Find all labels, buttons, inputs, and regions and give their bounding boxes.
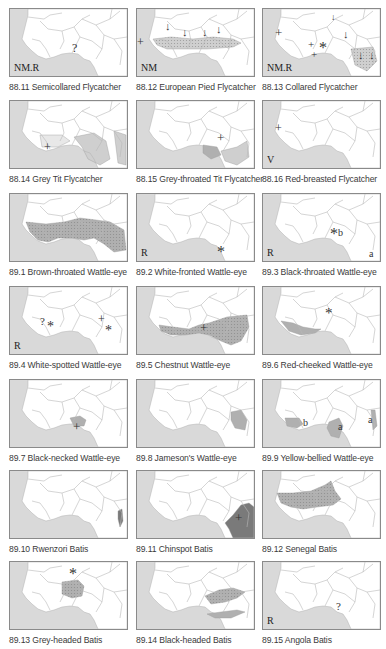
migration-arrow-icon: ↓ xyxy=(358,50,364,61)
map-frame: + xyxy=(136,470,255,539)
migration-arrow-icon: ↓ xyxy=(369,50,375,61)
range-map-89-1: 89.1 Brown-throated Wattle-eye xyxy=(9,193,129,281)
west-africa-map-icon xyxy=(137,380,254,447)
migration-arrow-icon: ↓ xyxy=(202,27,208,38)
range-map-89-9: baa89.9 Yellow-bellied Wattle-eye xyxy=(262,379,382,467)
range-map-88-16: +V88.16 Red-breasted Flycatcher xyxy=(262,100,382,188)
range-map-88-14: +88.14 Grey Tit Flycatcher xyxy=(9,100,129,188)
asterisk-breeding-icon: * xyxy=(330,226,338,242)
map-caption: 88.13 Collared Flycatcher xyxy=(262,82,357,92)
range-map-89-11: +89.11 Chinspot Batis xyxy=(136,470,256,558)
map-frame: ↓↓↓↓+++*NM.R xyxy=(262,8,381,77)
map-frame: * xyxy=(262,286,381,355)
west-africa-map-icon xyxy=(10,471,127,538)
asterisk-breeding-icon: * xyxy=(325,306,333,321)
range-map-89-10: 89.10 Rwenzori Batis xyxy=(9,470,129,558)
map-caption: 89.2 White-fronted Wattle-eye xyxy=(136,267,247,277)
asterisk-breeding-icon: * xyxy=(105,324,112,338)
range-map-88-13: ↓↓↓↓+++*NM.R88.13 Collared Flycatcher xyxy=(262,8,382,96)
map-frame xyxy=(9,470,128,539)
asterisk-breeding-icon: * xyxy=(47,320,54,334)
question-mark-icon: ? xyxy=(72,42,77,54)
west-africa-map-icon xyxy=(137,287,254,354)
map-frame: + xyxy=(136,286,255,355)
map-frame: ↓↓↓↓+NM xyxy=(136,8,255,77)
range-map-89-7: +89.7 Black-necked Wattle-eye xyxy=(9,379,129,467)
map-caption: 89.4 White-spotted Wattle-eye xyxy=(9,360,121,370)
map-frame: +V xyxy=(262,100,381,169)
question-mark-icon: ? xyxy=(336,601,341,612)
range-map-89-5: +89.5 Chestnut Wattle-eye xyxy=(136,286,256,374)
map-frame xyxy=(136,379,255,448)
range-map-89-13: *89.13 Grey-headed Batis xyxy=(9,561,129,649)
status-code: R xyxy=(14,340,21,351)
plus-record-icon: + xyxy=(235,511,242,524)
map-caption: 88.16 Red-breasted Flycatcher xyxy=(262,174,377,184)
map-caption: 89.10 Rwenzori Batis xyxy=(9,544,88,554)
migration-arrow-icon: ↓ xyxy=(331,13,336,22)
plus-record-icon: + xyxy=(73,420,80,433)
west-africa-map-icon xyxy=(137,101,254,168)
range-map-89-4: ?*+*R89.4 White-spotted Wattle-eye xyxy=(9,286,129,374)
plus-record-icon: + xyxy=(311,49,317,60)
status-code: NM.R xyxy=(14,62,39,73)
plus-record-icon: + xyxy=(98,313,105,325)
map-caption: 89.8 Jameson's Wattle-eye xyxy=(136,453,237,463)
migration-arrow-icon: ↓ xyxy=(165,21,171,32)
asterisk-breeding-icon: * xyxy=(217,244,225,260)
map-caption: 89.7 Black-necked Wattle-eye xyxy=(9,453,120,463)
map-frame: ?NM.R xyxy=(9,8,128,77)
map-caption: 89.13 Grey-headed Batis xyxy=(9,635,102,645)
map-frame xyxy=(136,561,255,630)
asterisk-breeding-icon: * xyxy=(319,40,327,56)
subspecies-b-label: b xyxy=(303,418,308,428)
map-frame: baa xyxy=(262,379,381,448)
map-caption: 88.11 Semicollared Flycatcher xyxy=(9,82,121,92)
west-africa-map-icon xyxy=(137,562,254,629)
map-frame: ?R xyxy=(262,561,381,630)
west-africa-map-icon xyxy=(263,471,380,538)
status-code: R xyxy=(267,615,274,626)
question-mark-icon: ? xyxy=(40,316,45,327)
map-caption: 89.14 Black-headed Batis xyxy=(136,635,232,645)
map-caption: 89.6 Red-cheeked Wattle-eye xyxy=(262,360,373,370)
map-frame: * xyxy=(9,561,128,630)
west-africa-map-icon xyxy=(10,194,127,261)
subspecies-b-label: b xyxy=(338,228,343,238)
map-frame: + xyxy=(9,379,128,448)
map-caption: 89.1 Brown-throated Wattle-eye xyxy=(9,267,127,277)
map-frame xyxy=(9,193,128,262)
map-frame: *baR xyxy=(262,193,381,262)
map-caption: 89.9 Yellow-bellied Wattle-eye xyxy=(262,453,373,463)
subspecies-a-label: a xyxy=(368,415,372,425)
range-map-89-14: 89.14 Black-headed Batis xyxy=(136,561,256,649)
west-africa-map-icon xyxy=(263,287,380,354)
plus-record-icon: + xyxy=(200,321,207,334)
status-code: V xyxy=(267,154,274,165)
map-frame: ?*+*R xyxy=(9,286,128,355)
map-caption: 89.12 Senegal Batis xyxy=(262,544,337,554)
range-map-89-3: *baR89.3 Black-throated Wattle-eye xyxy=(262,193,382,281)
migration-arrow-icon: ↓ xyxy=(182,27,188,38)
range-map-88-15: +88.15 Grey-throated Tit Flycatcher xyxy=(136,100,256,188)
west-africa-map-icon xyxy=(137,471,254,538)
map-frame: + xyxy=(9,100,128,169)
map-frame xyxy=(262,470,381,539)
range-map-89-2: *R89.2 White-fronted Wattle-eye xyxy=(136,193,256,281)
status-code: NM xyxy=(141,62,157,73)
range-map-89-8: 89.8 Jameson's Wattle-eye xyxy=(136,379,256,467)
map-caption: 89.3 Black-throated Wattle-eye xyxy=(262,267,377,277)
west-africa-map-icon xyxy=(137,194,254,261)
west-africa-map-icon xyxy=(10,101,127,168)
map-caption: 88.12 European Pied Flycatcher xyxy=(136,82,256,92)
plus-record-icon: + xyxy=(275,122,282,134)
west-africa-map-icon xyxy=(263,194,380,261)
map-frame: + xyxy=(136,100,255,169)
subspecies-a-label: a xyxy=(369,249,373,259)
west-africa-map-icon xyxy=(263,562,380,629)
west-africa-map-icon xyxy=(263,380,380,447)
status-code: R xyxy=(267,247,274,258)
map-frame: *R xyxy=(136,193,255,262)
status-code: R xyxy=(141,247,148,258)
